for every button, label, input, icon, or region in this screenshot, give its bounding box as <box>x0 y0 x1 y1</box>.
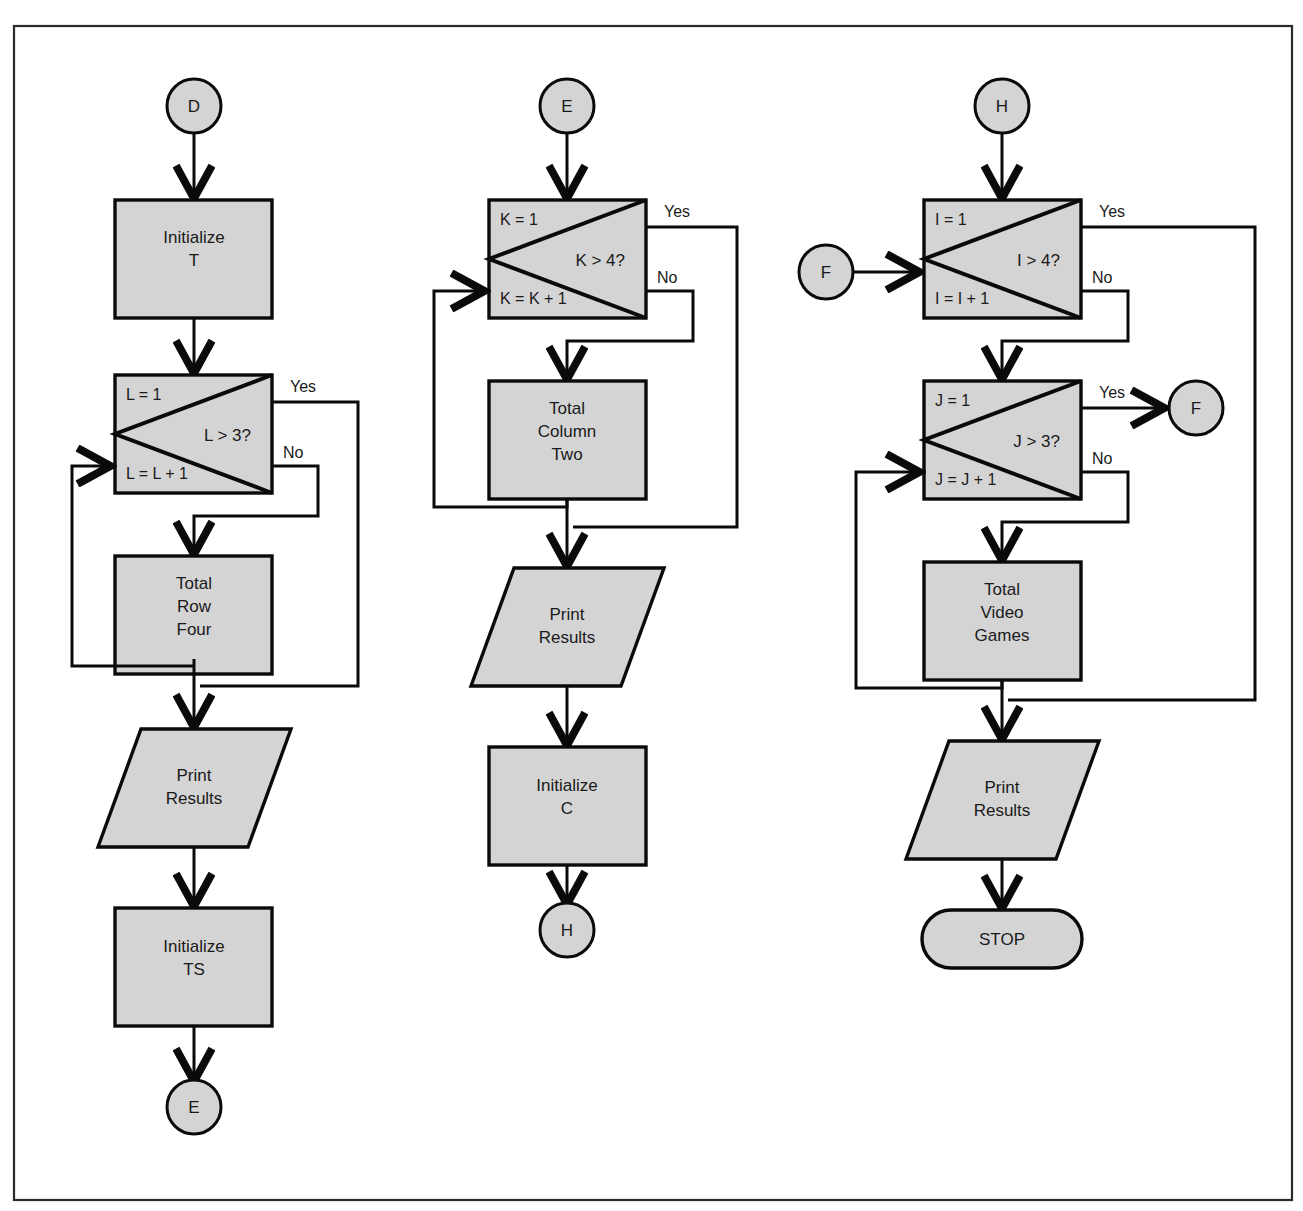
c1-conn-e[interactable]: E <box>167 1080 221 1134</box>
c3-loop-j-increment: J = J + 1 <box>935 471 996 488</box>
c3-total-video-line-0: Total <box>984 580 1020 599</box>
c1-init-ts-line-0: Initialize <box>163 937 224 956</box>
c3-conn-f-in-label: F <box>821 263 831 282</box>
c1-print-line-0: Print <box>177 766 212 785</box>
c2-loop-k-init: K = 1 <box>500 211 538 228</box>
c3-print-line-0: Print <box>985 778 1020 797</box>
c3-conn-f-out[interactable]: F <box>1169 381 1223 435</box>
c3-conn-h[interactable]: H <box>975 79 1029 133</box>
c2-total-col[interactable]: Total Column Two <box>489 381 646 499</box>
c3-loop-i-condition: I > 4? <box>1017 251 1060 270</box>
c3-total-video-line-2: Games <box>975 626 1030 645</box>
c1-init-t-line-1: T <box>189 251 199 270</box>
c3-loop-i-no-label: No <box>1092 269 1113 286</box>
c1-init-t[interactable]: Initialize T <box>115 200 272 318</box>
c1-init-t-line-0: Initialize <box>163 228 224 247</box>
c3-loop-i[interactable]: I = 1 I = I + 1 I > 4? <box>924 200 1081 318</box>
c1-conn-d[interactable]: D <box>167 79 221 133</box>
c1-conn-e-label: E <box>188 1098 199 1117</box>
flowchart-canvas: D Initialize T L = 1 L = L + 1 L > 3? Ye… <box>0 0 1303 1211</box>
c1-init-ts[interactable]: Initialize TS <box>115 908 272 1026</box>
c2-init-c-line-1: C <box>561 799 573 818</box>
c2-init-c[interactable]: Initialize C <box>489 747 646 865</box>
c3-loop-j-init: J = 1 <box>935 392 970 409</box>
c3-print-line-1: Results <box>974 801 1031 820</box>
c1-loop-l-init: L = 1 <box>126 386 162 403</box>
c1-loop-l-no-label: No <box>283 444 304 461</box>
c1-loop-l-yes-label: Yes <box>290 378 316 395</box>
c1-loop-l-condition: L > 3? <box>204 426 251 445</box>
c2-total-col-line-2: Two <box>551 445 582 464</box>
flowchart-page: D Initialize T L = 1 L = L + 1 L > 3? Ye… <box>0 0 1303 1211</box>
c3-loop-i-increment: I = I + 1 <box>935 290 989 307</box>
c3-loop-i-init: I = 1 <box>935 211 967 228</box>
c2-conn-e[interactable]: E <box>540 79 594 133</box>
c3-conn-f-out-label: F <box>1191 399 1201 418</box>
c2-print-line-1: Results <box>539 628 596 647</box>
c2-loop-k-condition: K > 4? <box>575 251 625 270</box>
c3-loop-j[interactable]: J = 1 J = J + 1 J > 3? <box>924 381 1081 499</box>
c2-conn-e-label: E <box>561 97 572 116</box>
c3-loop-j-no-label: No <box>1092 450 1113 467</box>
c1-total-row-line-0: Total <box>176 574 212 593</box>
c2-loop-k[interactable]: K = 1 K = K + 1 K > 4? <box>489 200 646 318</box>
c3-conn-f-in[interactable]: F <box>799 245 853 299</box>
c2-total-col-line-0: Total <box>549 399 585 418</box>
c2-conn-h-label: H <box>561 921 573 940</box>
c1-total-row-line-2: Four <box>177 620 212 639</box>
c1-init-ts-line-1: TS <box>183 960 205 979</box>
c2-loop-k-increment: K = K + 1 <box>500 290 567 307</box>
c2-total-col-line-1: Column <box>538 422 597 441</box>
c3-stop-label: STOP <box>979 930 1025 949</box>
c3-total-video[interactable]: Total Video Games <box>924 562 1081 680</box>
c2-init-c-line-0: Initialize <box>536 776 597 795</box>
c2-print-line-0: Print <box>550 605 585 624</box>
c1-total-row[interactable]: Total Row Four <box>115 556 272 674</box>
c3-loop-j-condition: J > 3? <box>1013 432 1060 451</box>
c1-loop-l-increment: L = L + 1 <box>126 465 188 482</box>
c3-conn-h-label: H <box>996 97 1008 116</box>
c1-loop-l[interactable]: L = 1 L = L + 1 L > 3? <box>115 375 272 493</box>
c2-loop-k-no-label: No <box>657 269 678 286</box>
c3-total-video-line-1: Video <box>980 603 1023 622</box>
c1-print-line-1: Results <box>166 789 223 808</box>
c3-loop-j-yes-label: Yes <box>1099 384 1125 401</box>
c1-total-row-line-1: Row <box>177 597 212 616</box>
c3-stop[interactable]: STOP <box>922 910 1082 968</box>
c2-conn-h[interactable]: H <box>540 903 594 957</box>
c1-conn-d-label: D <box>188 97 200 116</box>
c3-loop-i-yes-label: Yes <box>1099 203 1125 220</box>
c2-loop-k-yes-label: Yes <box>664 203 690 220</box>
